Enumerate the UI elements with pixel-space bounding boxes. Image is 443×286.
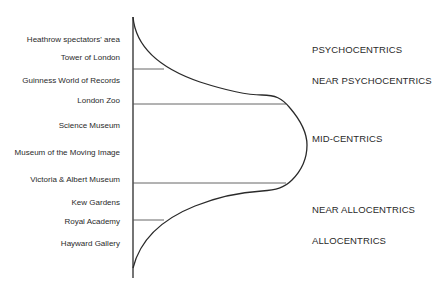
segment-label-near-allocentrics: NEAR ALLOCENTRICS	[312, 204, 415, 216]
attraction-label-victoria-albert: Victoria & Albert Museum	[30, 175, 120, 185]
distribution-curve	[133, 17, 307, 268]
segment-label-psychocentrics: PSYCHOCENTRICS	[312, 44, 402, 56]
attraction-label-heathrow: Heathrow spectators' area	[27, 35, 120, 45]
segment-label-near-psychocentrics: NEAR PSYCHOCENTRICS	[312, 75, 432, 87]
attraction-label-moving-image: Museum of the Moving Image	[15, 148, 120, 158]
segment-label-mid-centrics: MID-CENTRICS	[312, 133, 382, 145]
attraction-label-hayward-gallery: Hayward Gallery	[61, 239, 120, 249]
attraction-label-london-zoo: London Zoo	[77, 96, 120, 106]
attraction-label-kew-gardens: Kew Gardens	[72, 198, 120, 208]
attraction-label-tower-of-london: Tower of London	[61, 53, 120, 63]
attraction-label-royal-academy: Royal Academy	[64, 217, 120, 227]
attraction-label-science-museum: Science Museum	[59, 121, 120, 131]
attraction-label-guinness: Guinness World of Records	[22, 76, 120, 86]
psychographic-curve-diagram: Heathrow spectators' area Tower of Londo…	[0, 0, 443, 286]
segment-label-allocentrics: ALLOCENTRICS	[312, 235, 386, 247]
